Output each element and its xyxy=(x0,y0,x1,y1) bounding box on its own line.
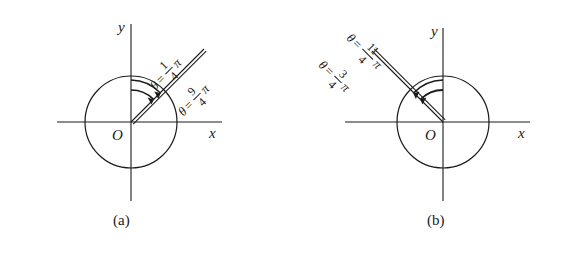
arc-quarter-pi xyxy=(131,90,154,99)
x-axis-label: x xyxy=(518,126,525,141)
y-axis-label: y xyxy=(431,24,438,39)
panel-b-caption: (b) xyxy=(427,212,445,229)
origin-label: O xyxy=(425,128,436,143)
x-axis-label: x xyxy=(209,126,216,141)
y-axis-label: y xyxy=(118,20,125,35)
origin-label: O xyxy=(112,128,123,143)
panel-a-diagram xyxy=(0,0,286,254)
panel-a: y x O θ = 1 4 π θ = 9 4 π (a) xyxy=(0,0,286,254)
panel-a-caption: (a) xyxy=(113,212,130,229)
panel-b: y x O θ = 11 4 π θ = 3 4 π (b) xyxy=(287,0,573,254)
arc-eleven-quarter-pi xyxy=(413,80,443,93)
figure-coterminal-angles: y x O θ = 1 4 π θ = 9 4 π (a) xyxy=(0,0,573,254)
